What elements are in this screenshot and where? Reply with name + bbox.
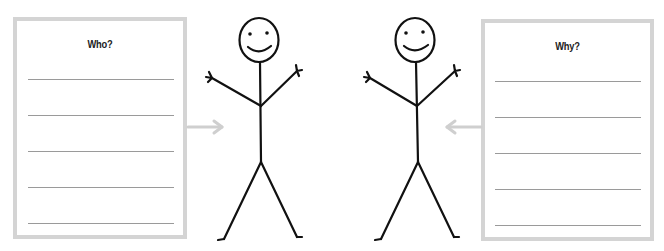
illustration [0, 0, 664, 251]
head-icon [396, 18, 435, 62]
arrow-right-icon [188, 121, 222, 133]
arrow-left-icon [447, 121, 481, 133]
right-stick-figure [364, 18, 460, 240]
head-icon [240, 18, 279, 62]
